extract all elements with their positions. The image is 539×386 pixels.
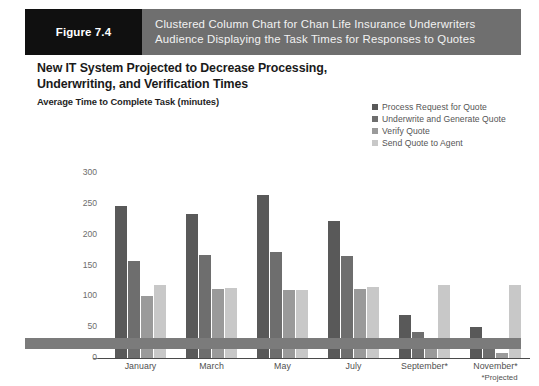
x-axis-tick-label: July (346, 361, 362, 371)
y-axis-tick-label: 50 (63, 321, 97, 331)
figure-number-box: Figure 7.4 (25, 9, 142, 55)
bar[interactable] (186, 214, 198, 358)
y-axis: 300250200150100500 (63, 172, 97, 357)
bar-cluster (470, 173, 521, 358)
bar-cluster (257, 173, 308, 358)
chart-axis-unit-label: Average Time to Complete Task (minutes) (37, 96, 219, 107)
y-axis-tick-label: 100 (63, 290, 97, 300)
projected-footnote: *Projected (482, 373, 518, 382)
x-axis-tick-label: January (125, 361, 157, 371)
figure-number-label: Figure 7.4 (56, 26, 111, 38)
plot-region: 300250200150100500 JanuaryMarchMayJulySe… (63, 117, 513, 297)
y-axis-tick-label: 250 (63, 198, 97, 208)
y-axis-tick-label: 0 (63, 352, 97, 362)
figure-header-banner: Figure 7.4 Clustered Column Chart for Ch… (25, 9, 521, 55)
bar-cluster (399, 173, 450, 358)
bar-cluster (115, 173, 166, 358)
bar-cluster (186, 173, 237, 358)
figure-card: Figure 7.4 Clustered Column Chart for Ch… (18, 0, 521, 363)
figure-caption-line-1: Clustered Column Chart for Chan Life Ins… (155, 17, 515, 33)
legend-item[interactable]: Process Request for Quote (372, 101, 506, 112)
chart-title: New IT System Projected to Decrease Proc… (37, 61, 387, 92)
x-axis-tick-label: November* (473, 361, 517, 371)
figure-caption: Clustered Column Chart for Chan Life Ins… (142, 9, 521, 55)
x-axis-line (97, 358, 530, 359)
bar[interactable] (257, 195, 269, 358)
x-axis-tick-label: September* (401, 361, 448, 371)
y-axis-tick-label: 200 (63, 229, 97, 239)
bar[interactable] (115, 206, 127, 358)
bars-layer (101, 173, 530, 358)
y-axis-zero-tick (93, 358, 98, 359)
figure-bottom-bar (25, 338, 521, 349)
figure-caption-line-2: Audience Displaying the Task Times for R… (155, 32, 515, 48)
legend-swatch-icon (372, 104, 378, 110)
bar[interactable] (399, 315, 411, 358)
x-axis: JanuaryMarchMayJulySeptember*November**P… (97, 361, 537, 386)
y-axis-tick-label: 150 (63, 260, 97, 270)
legend-item-label: Process Request for Quote (382, 102, 487, 112)
x-axis-tick-label: May (274, 361, 291, 371)
chart-area: New IT System Projected to Decrease Proc… (25, 55, 521, 335)
y-axis-tick-label: 300 (63, 167, 97, 177)
bar-cluster (328, 173, 379, 358)
x-axis-tick-label: March (199, 361, 224, 371)
